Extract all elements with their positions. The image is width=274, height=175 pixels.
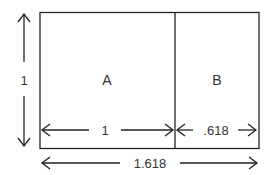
region-a-label: A [102, 72, 112, 88]
total-width-label: 1.618 [134, 156, 167, 171]
height-label: 1 [20, 73, 27, 88]
width-b-label: .618 [203, 123, 228, 138]
region-b-label: B [212, 72, 221, 88]
width-a-label: 1 [101, 123, 108, 138]
golden-rectangle-diagram: 1 A B 1 .618 1.618 [0, 0, 274, 175]
